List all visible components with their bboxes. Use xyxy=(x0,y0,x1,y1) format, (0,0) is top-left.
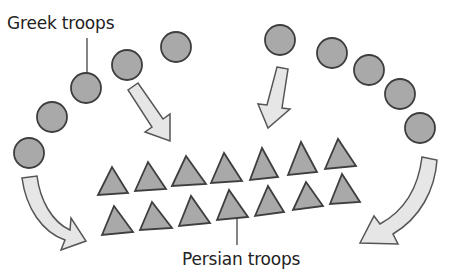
right-flank-envelop-arrow-icon xyxy=(360,157,437,244)
greek-troops xyxy=(14,25,435,168)
diagram-canvas xyxy=(0,0,455,280)
right-center-attack-arrow-icon xyxy=(258,67,290,128)
persian-troops-label: Persian troops xyxy=(182,249,300,269)
persian-soldier-marker xyxy=(140,202,172,230)
left-center-attack-arrow-icon xyxy=(128,83,170,141)
persian-soldier-marker xyxy=(102,206,133,235)
persian-soldier-marker xyxy=(330,174,360,204)
persian-soldier-marker xyxy=(288,142,317,175)
greek-soldier-marker xyxy=(317,38,347,68)
persian-soldier-marker xyxy=(135,162,166,191)
battle-diagram: Greek troops Persian troops xyxy=(0,0,455,280)
greek-soldier-marker xyxy=(354,55,384,85)
persian-soldier-marker xyxy=(211,153,242,183)
greek-soldier-marker xyxy=(385,79,415,109)
persian-soldier-marker xyxy=(255,186,284,216)
persian-soldier-marker xyxy=(217,190,248,220)
persian-soldier-marker xyxy=(325,139,356,169)
persian-soldier-marker xyxy=(172,156,206,186)
persian-soldier-marker xyxy=(98,167,128,195)
persian-soldier-marker xyxy=(179,196,210,226)
persian-troops-front-row xyxy=(98,139,356,195)
left-flank-envelop-arrow-icon xyxy=(22,176,86,250)
greek-soldier-marker xyxy=(71,73,101,103)
greek-soldier-marker xyxy=(112,50,142,80)
greek-soldier-marker xyxy=(265,25,295,55)
greek-soldier-marker xyxy=(161,32,191,62)
greek-soldier-marker xyxy=(37,102,67,132)
greek-soldier-marker xyxy=(405,113,435,143)
persian-soldier-marker xyxy=(250,148,278,180)
persian-soldier-marker xyxy=(293,182,323,210)
greek-troops-label: Greek troops xyxy=(7,13,114,33)
greek-soldier-marker xyxy=(14,138,44,168)
